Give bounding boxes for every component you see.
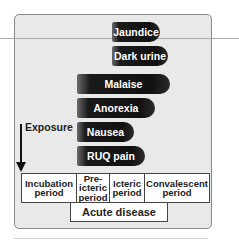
symptom-bar-anorexia: Anorexia [77, 98, 155, 118]
down-arrow-head-icon [16, 162, 26, 172]
phase-timeline: Incubation period Pre- icteric period Ic… [21, 173, 210, 203]
phase-convalescent: Convalescent period [145, 174, 209, 202]
phase-pre-icteric: Pre- icteric period [77, 174, 110, 202]
down-arrow-icon [20, 124, 22, 164]
phase-incubation: Incubation period [22, 174, 77, 202]
symptom-bar-ruq-pain: RUQ pain [77, 146, 145, 166]
exposure-label: Exposure [25, 121, 73, 133]
acute-disease-box: Acute disease [70, 202, 168, 222]
bottom-divider-line [14, 238, 208, 239]
symptom-bar-nausea: Nausea [77, 122, 134, 142]
phase-icteric: Icteric period [110, 174, 145, 202]
symptom-bar-jaundice: Jaundice [112, 22, 160, 42]
symptom-bar-malaise: Malaise [77, 74, 170, 94]
symptom-bar-dark-urine: Dark urine [112, 46, 168, 66]
